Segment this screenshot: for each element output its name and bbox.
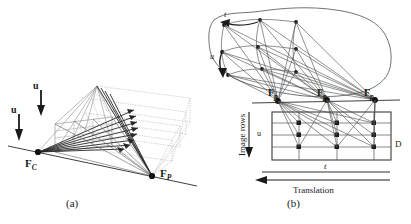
- panel-a-fp-subscript: P: [167, 173, 172, 182]
- panel-b-fp-label-3: Fp: [364, 88, 374, 101]
- panel-b-fp2-subscript: p: [323, 92, 327, 101]
- panel-b-epi-inner-rays: [278, 100, 375, 147]
- panel-b-u-label-surface: u: [210, 53, 214, 61]
- panel-b-t-axis-label: t: [324, 162, 327, 171]
- panel-a-fp-label: FP: [160, 168, 171, 182]
- panel-b-fp-label-2: Fp: [317, 88, 327, 101]
- panel-a-focal-point-pattern-dot: [149, 173, 155, 179]
- panel-a-fc-base: F: [25, 157, 32, 169]
- figure-vector-artwork: [0, 0, 411, 224]
- panel-b-projection-rays: [222, 20, 375, 100]
- panel-b-fp-label-1: Fp: [268, 88, 278, 101]
- panel-b-fp3-subscript: p: [370, 92, 374, 101]
- panel-a-u-arrow-top: [37, 90, 45, 116]
- panel-b-u-axis-label: u: [257, 130, 261, 138]
- caption-a: (a): [66, 198, 78, 209]
- figure-container: u u FC FP (a) t u Fp Fp Fp Image rows u …: [0, 0, 411, 224]
- panel-a-u-label-top: u: [33, 81, 39, 91]
- panel-a-focal-point-camera-dot: [35, 149, 41, 155]
- panel-b-t-label-surface: t: [224, 11, 226, 19]
- panel-b-u-arrow-surface: [218, 50, 227, 78]
- panel-a-fc-subscript: C: [32, 163, 37, 172]
- panel-b-translation-arrow: [255, 176, 390, 184]
- panel-b-d-label: D: [395, 140, 402, 149]
- panel-b-translation-label: Translation: [293, 186, 334, 195]
- panel-a-fc-label: FC: [25, 158, 37, 172]
- panel-b-fp1-subscript: p: [274, 92, 278, 101]
- panel-b-image-rows-label: Image rows: [238, 114, 247, 156]
- panel-a-u-arrow-left: [15, 114, 23, 141]
- panel-a-u-label-left: u: [11, 105, 17, 115]
- panel-b-curved-surface-outline: [209, 8, 391, 97]
- panel-a-fp-base: F: [160, 167, 167, 179]
- caption-b: (b): [287, 198, 300, 209]
- panel-a-apex-cone-left: [38, 86, 112, 152]
